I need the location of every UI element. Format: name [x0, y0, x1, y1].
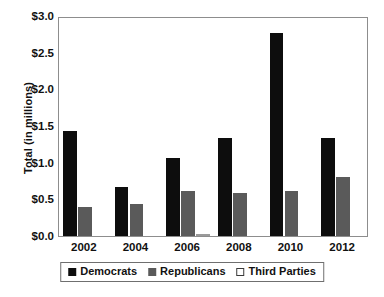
bar	[218, 138, 232, 236]
x-axis-tick-label: 2006	[161, 240, 213, 254]
y-axis-tick-label: $0.5	[2, 194, 54, 205]
bar	[78, 207, 92, 236]
y-axis-tick-label: $3.0	[2, 11, 54, 22]
legend-swatch-icon	[237, 268, 245, 276]
y-axis-tick-labels: $0.0$0.5$1.0$1.5$2.0$2.5$3.0	[0, 0, 54, 297]
x-axis-tick-label: 2010	[265, 240, 317, 254]
bar-group	[166, 18, 210, 236]
bar	[181, 191, 195, 236]
bar	[285, 191, 299, 236]
bars-layer	[59, 18, 367, 236]
legend-swatch-icon	[68, 268, 76, 276]
x-axis-tick-label: 2008	[213, 240, 265, 254]
y-axis-tick-label: $2.5	[2, 48, 54, 59]
legend-label: Democrats	[80, 265, 137, 278]
bar-group	[115, 18, 159, 236]
legend-swatch-icon	[148, 268, 156, 276]
x-axis-tick-label: 2004	[110, 240, 162, 254]
bar-group	[321, 18, 365, 236]
bar	[321, 138, 335, 236]
y-axis-tick-label: $1.0	[2, 158, 54, 169]
bar-group	[63, 18, 107, 236]
bar	[233, 193, 247, 236]
legend-item: Third Parties	[237, 265, 316, 278]
y-axis-tick-label: $1.5	[2, 121, 54, 132]
bar-group	[218, 18, 262, 236]
bar-group	[270, 18, 314, 236]
y-axis-tick-label: $0.0	[2, 231, 54, 242]
bar	[336, 177, 350, 236]
legend-item: Democrats	[68, 265, 137, 278]
chart-legend: DemocratsRepublicansThird Parties	[60, 262, 324, 282]
bar	[166, 158, 180, 236]
plot-area	[58, 17, 368, 237]
x-axis-tick-label: 2002	[58, 240, 110, 254]
bar	[63, 131, 77, 236]
legend-item: Republicans	[148, 265, 225, 278]
bar	[115, 187, 129, 236]
bar	[196, 234, 210, 236]
bar-chart-figure: Total (in millions) $0.0$0.5$1.0$1.5$2.0…	[0, 0, 384, 297]
legend-label: Third Parties	[249, 265, 316, 278]
y-axis-tick-label: $2.0	[2, 84, 54, 95]
bar	[270, 33, 284, 236]
bar	[130, 204, 144, 236]
legend-label: Republicans	[160, 265, 225, 278]
x-axis-tick-label: 2012	[316, 240, 368, 254]
